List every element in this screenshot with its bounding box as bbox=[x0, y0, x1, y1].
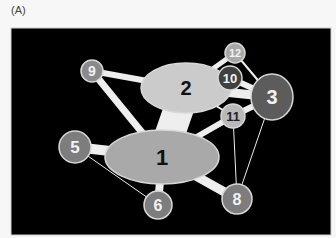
node-5: 5 bbox=[59, 131, 91, 163]
node-12: 12 bbox=[225, 43, 245, 63]
node-10: 10 bbox=[218, 66, 242, 90]
node-label: 10 bbox=[223, 71, 237, 86]
node-9: 9 bbox=[81, 60, 103, 82]
node-label: 5 bbox=[70, 138, 79, 157]
node-label: 6 bbox=[154, 197, 163, 214]
node-label: 1 bbox=[156, 145, 168, 170]
node-2: 2 bbox=[141, 63, 231, 113]
node-label: 3 bbox=[266, 86, 277, 108]
network-diagram: 1235689101112 bbox=[0, 0, 336, 238]
node-3: 3 bbox=[251, 74, 293, 120]
node-6: 6 bbox=[144, 191, 172, 219]
node-8: 8 bbox=[222, 184, 252, 214]
node-label: 2 bbox=[180, 77, 191, 99]
node-label: 9 bbox=[88, 63, 96, 79]
node-1: 1 bbox=[105, 130, 219, 184]
node-label: 12 bbox=[229, 47, 241, 59]
node-label: 8 bbox=[233, 191, 242, 208]
node-11: 11 bbox=[221, 104, 245, 128]
node-label: 11 bbox=[226, 109, 240, 124]
